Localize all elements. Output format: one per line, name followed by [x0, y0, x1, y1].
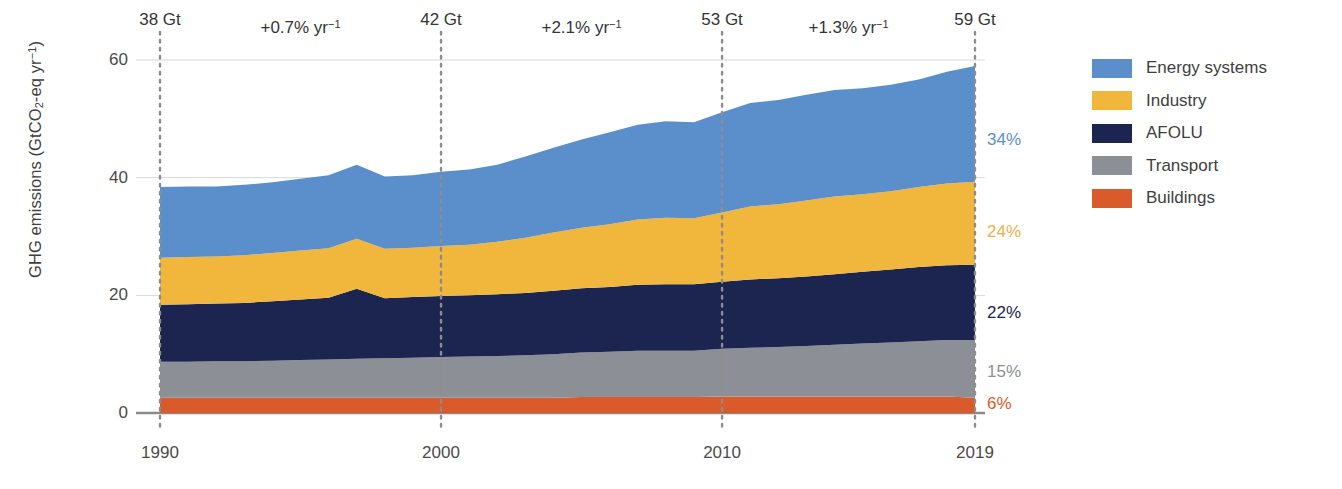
- x-axis-tick-2000: 2000: [422, 443, 460, 463]
- x-axis-tick-1990: 1990: [141, 443, 179, 463]
- y-axis-label: GHG emissions (GtCO2-eq yr−1): [26, 0, 45, 325]
- legend-label: Industry: [1146, 91, 1206, 111]
- legend-swatch-icon: [1092, 124, 1132, 143]
- y-axis-tick-60: 60: [109, 50, 128, 70]
- growth-rate-label-1990-2000: +0.7% yr−1: [260, 18, 340, 38]
- growth-rate-label-2000-2010: +2.1% yr−1: [541, 18, 621, 38]
- share-label-buildings: 6%: [987, 394, 1012, 414]
- x-axis-tick-2010: 2010: [703, 443, 741, 463]
- legend-swatch-icon: [1092, 156, 1132, 175]
- share-label-transport: 15%: [987, 362, 1021, 382]
- legend-item-afolu[interactable]: AFOLU: [1092, 117, 1267, 150]
- growth-rate-text: +1.3% yr−1: [808, 18, 888, 37]
- legend-swatch-icon: [1092, 91, 1132, 110]
- area-series-buildings: [160, 397, 975, 413]
- ghg-emissions-stacked-area-chart: GHG emissions (GtCO2-eq yr−1)02040601990…: [0, 0, 1342, 489]
- legend-label: Buildings: [1146, 188, 1215, 208]
- legend-item-transport[interactable]: Transport: [1092, 150, 1267, 183]
- chart-legend: Energy systemsIndustryAFOLUTransportBuil…: [1092, 52, 1267, 215]
- legend-swatch-icon: [1092, 59, 1132, 78]
- legend-item-energy-systems[interactable]: Energy systems: [1092, 52, 1267, 85]
- milestone-label-2000: 42 Gt: [420, 10, 462, 30]
- legend-item-buildings[interactable]: Buildings: [1092, 182, 1267, 215]
- legend-item-industry[interactable]: Industry: [1092, 85, 1267, 118]
- growth-rate-text: +2.1% yr−1: [541, 18, 621, 37]
- milestone-label-1990: 38 Gt: [139, 10, 181, 30]
- y-axis-tick-20: 20: [109, 285, 128, 305]
- share-label-energy-systems: 34%: [987, 130, 1021, 150]
- legend-swatch-icon: [1092, 189, 1132, 208]
- milestone-label-2019: 59 Gt: [954, 10, 996, 30]
- y-axis-tick-40: 40: [109, 168, 128, 188]
- growth-rate-text: +0.7% yr−1: [260, 18, 340, 37]
- share-label-afolu: 22%: [987, 303, 1021, 323]
- y-axis-tick-0: 0: [119, 403, 128, 423]
- y-axis-label-text: GHG emissions (GtCO2-eq yr−1): [26, 41, 44, 278]
- milestone-label-2010: 53 Gt: [701, 10, 743, 30]
- growth-rate-label-2010-2019: +1.3% yr−1: [808, 18, 888, 38]
- x-axis-tick-2019: 2019: [956, 443, 994, 463]
- share-label-industry: 24%: [987, 222, 1021, 242]
- legend-label: Energy systems: [1146, 58, 1267, 78]
- legend-label: Transport: [1146, 156, 1218, 176]
- legend-label: AFOLU: [1146, 123, 1203, 143]
